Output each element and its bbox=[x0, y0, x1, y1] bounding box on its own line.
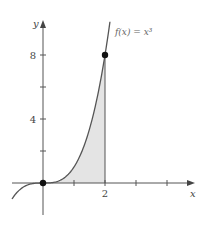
y-axis-arrow-icon bbox=[40, 20, 46, 28]
x-axis-label: x bbox=[190, 188, 196, 199]
shaded-area-under-curve bbox=[43, 55, 105, 183]
point-marker bbox=[40, 180, 46, 186]
x-axis-arrow-icon bbox=[187, 180, 195, 186]
y-axis-label: y bbox=[32, 18, 39, 29]
function-graph: x y f(x) = x³ 248 bbox=[0, 0, 213, 225]
function-label: f(x) = x³ bbox=[114, 27, 153, 37]
x-tick-label: 2 bbox=[102, 188, 108, 199]
point-marker bbox=[102, 52, 108, 58]
y-tick-label: 8 bbox=[30, 50, 36, 61]
y-tick-label: 4 bbox=[30, 114, 36, 125]
